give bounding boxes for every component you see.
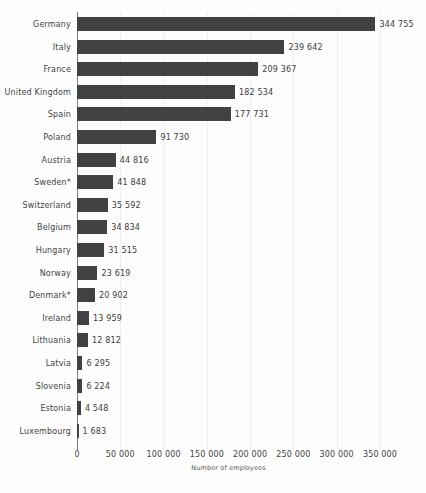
bar <box>77 85 235 99</box>
bar <box>77 424 79 438</box>
bar-row: Lithuania12 812 <box>77 333 380 347</box>
bar-value-label: 91 730 <box>160 133 189 142</box>
bar-row: Poland91 730 <box>77 130 380 144</box>
bar-row: Slovenia6 224 <box>77 379 380 393</box>
bar-row: Norway23 619 <box>77 266 380 280</box>
bar-value-label: 6 295 <box>86 359 110 368</box>
bar-row: Germany344 755 <box>77 17 380 31</box>
category-label: Estonia <box>40 404 71 413</box>
x-axis-title: Number of employees <box>77 464 380 472</box>
x-tick-label: 300 000 <box>320 450 354 459</box>
x-tick-label: 50 000 <box>106 450 135 459</box>
bar <box>77 266 97 280</box>
bar-row: Italy239 642 <box>77 40 380 54</box>
category-label: Luxembourg <box>20 426 71 435</box>
bar <box>77 333 88 347</box>
bar-row: Ireland13 959 <box>77 311 380 325</box>
category-label: Poland <box>43 133 71 142</box>
x-tick-label: 250 000 <box>276 450 310 459</box>
x-tick-label: 100 000 <box>146 450 180 459</box>
category-label: Italy <box>53 42 71 51</box>
bar-value-label: 239 642 <box>288 42 322 51</box>
x-tick-label: 350 000 <box>363 450 397 459</box>
bar-value-label: 209 367 <box>262 65 296 74</box>
bar-value-label: 12 812 <box>92 336 121 345</box>
x-tick-label: 200 000 <box>233 450 267 459</box>
category-label: Switzerland <box>23 200 71 209</box>
x-tick-label: 150 000 <box>190 450 224 459</box>
bar <box>77 107 231 121</box>
category-label: Hungary <box>36 246 71 255</box>
bar <box>77 356 82 370</box>
bar <box>77 175 113 189</box>
bar-value-label: 34 834 <box>111 223 140 232</box>
category-label: Austria <box>42 155 71 164</box>
bar <box>77 379 82 393</box>
category-label: Denmark* <box>29 291 71 300</box>
bar-value-label: 20 902 <box>99 291 128 300</box>
category-label: Norway <box>40 268 71 277</box>
bar <box>77 288 95 302</box>
bar-row: Sweden*41 848 <box>77 175 380 189</box>
bar-value-label: 44 816 <box>120 155 149 164</box>
bar <box>77 62 258 76</box>
bar <box>77 40 284 54</box>
bar-row: United Kingdom182 534 <box>77 85 380 99</box>
bar <box>77 130 156 144</box>
category-label: Germany <box>33 20 71 29</box>
category-label: Ireland <box>42 313 71 322</box>
category-label: Belgium <box>37 223 71 232</box>
bar-value-label: 1 683 <box>83 426 107 435</box>
bar <box>77 198 108 212</box>
bar-row: France209 367 <box>77 62 380 76</box>
bar-value-label: 4 548 <box>85 404 109 413</box>
bar-value-label: 41 848 <box>117 178 146 187</box>
bar-row: Hungary31 515 <box>77 243 380 257</box>
category-label: Slovenia <box>36 381 71 390</box>
bar <box>77 17 375 31</box>
bar <box>77 220 107 234</box>
category-label: Sweden* <box>34 178 71 187</box>
bars-layer: Germany344 755Italy239 642France209 367U… <box>77 12 380 450</box>
bar-row: Luxembourg1 683 <box>77 424 380 438</box>
bar <box>77 153 116 167</box>
x-tick-label: 0 <box>74 450 79 459</box>
bar-chart: Germany344 755Italy239 642France209 367U… <box>0 0 426 493</box>
bar <box>77 311 89 325</box>
x-axis-ticks: 050 000100 000150 000200 000250 000300 0… <box>77 450 380 464</box>
bar-value-label: 344 755 <box>379 20 413 29</box>
bar-row: Estonia4 548 <box>77 401 380 415</box>
bar-row: Latvia6 295 <box>77 356 380 370</box>
category-label: Lithuania <box>33 336 72 345</box>
category-label: Latvia <box>46 359 71 368</box>
category-label: Spain <box>48 110 71 119</box>
bar-value-label: 35 592 <box>112 200 141 209</box>
bar-value-label: 31 515 <box>108 246 137 255</box>
bar-row: Belgium34 834 <box>77 220 380 234</box>
bar-value-label: 23 619 <box>101 268 130 277</box>
bar-row: Switzerland35 592 <box>77 198 380 212</box>
bar-value-label: 177 731 <box>235 110 269 119</box>
bar <box>77 401 81 415</box>
gridline <box>380 12 381 450</box>
bar-value-label: 6 224 <box>86 381 110 390</box>
bar <box>77 243 104 257</box>
bar-row: Austria44 816 <box>77 153 380 167</box>
bar-value-label: 13 959 <box>93 313 122 322</box>
category-label: United Kingdom <box>5 87 71 96</box>
bar-row: Denmark*20 902 <box>77 288 380 302</box>
bar-row: Spain177 731 <box>77 107 380 121</box>
bar-value-label: 182 534 <box>239 87 273 96</box>
category-label: France <box>43 65 71 74</box>
